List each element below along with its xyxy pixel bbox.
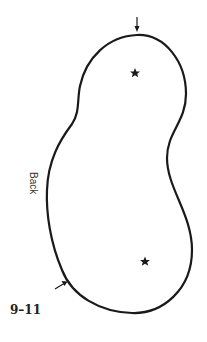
back-label: Back xyxy=(28,172,39,195)
lower-star-icon xyxy=(140,257,150,266)
diagram-canvas: Back 9–11 xyxy=(0,0,207,342)
figure-label: 9–11 xyxy=(10,303,41,317)
upper-star-icon xyxy=(130,68,140,77)
shape-outline xyxy=(47,35,192,313)
top-arrow-icon xyxy=(135,17,140,32)
lower-left-arrow-icon xyxy=(55,281,68,289)
